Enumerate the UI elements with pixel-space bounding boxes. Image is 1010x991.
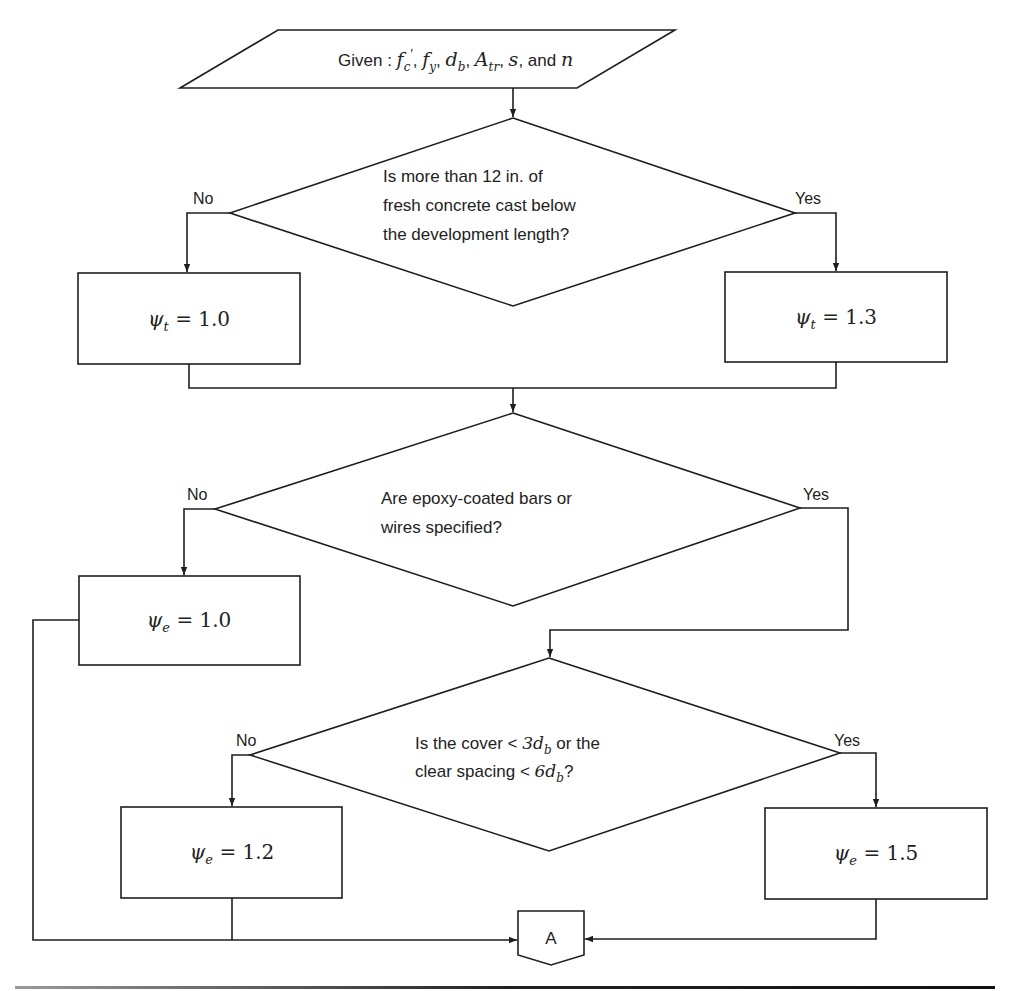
decision-cast-below: Is more than 12 in. of fresh concrete ca… <box>230 118 795 306</box>
result-text: ψe = 1.0 <box>147 608 232 635</box>
no-branch-arrow <box>187 213 230 272</box>
no-label: No <box>236 732 257 749</box>
result-psi-e-1-0: ψe = 1.0 <box>79 576 300 665</box>
result-psi-t-1-3: ψt = 1.3 <box>725 272 947 362</box>
result-text: ψt = 1.3 <box>795 305 877 332</box>
result-text: ψe = 1.5 <box>834 841 919 868</box>
result-text: ψe = 1.2 <box>190 840 275 867</box>
decision-text-line: fresh concrete cast below <box>383 196 576 215</box>
decision-text-line: Are epoxy-coated bars or <box>381 489 572 508</box>
offpage-connector-a: A <box>518 911 584 965</box>
merge-line <box>189 362 836 388</box>
input-parallelogram: Given : fc′, fy, db, Atr, s, and n <box>180 30 675 88</box>
decision-epoxy: Are epoxy-coated bars or wires specified… <box>215 413 800 606</box>
decision-text-line: wires specified? <box>380 518 502 537</box>
no-branch-arrow <box>184 509 215 575</box>
input-text: Given : fc′, fy, db, Atr, s, and n <box>338 46 573 74</box>
bottom-rule <box>15 986 995 989</box>
no-label: No <box>193 190 214 207</box>
result-psi-e-1-5: ψe = 1.5 <box>765 808 987 899</box>
connector-label: A <box>545 929 557 948</box>
decision-text-line: Is more than 12 in. of <box>383 167 543 186</box>
flow-to-connector-right <box>585 899 876 939</box>
result-psi-t-1-0: ψt = 1.0 <box>78 273 300 364</box>
yes-label: Yes <box>795 190 821 207</box>
result-text: ψt = 1.0 <box>148 307 230 334</box>
flowchart-canvas: Given : fc′, fy, db, Atr, s, and n Is mo… <box>0 0 1010 991</box>
yes-branch-arrow <box>795 213 836 271</box>
result-psi-e-1-2: ψe = 1.2 <box>121 807 342 898</box>
no-branch-arrow <box>232 755 250 806</box>
yes-branch-arrow <box>840 753 876 807</box>
no-label: No <box>187 486 208 503</box>
decision-text-line: the development length? <box>383 225 569 244</box>
yes-label: Yes <box>834 732 860 749</box>
yes-label: Yes <box>803 486 829 503</box>
